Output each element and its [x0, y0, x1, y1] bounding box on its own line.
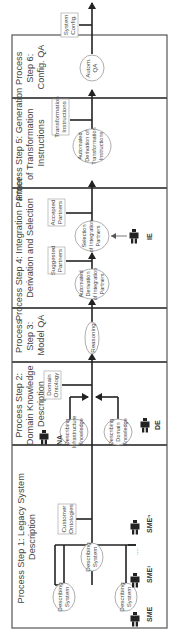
- process-diagram: Process Step 1: Legacy System Descriptio…: [0, 0, 176, 637]
- actor-sme-n: SMEⁿ: [131, 515, 154, 535]
- svg-text:DE: DE: [154, 420, 161, 430]
- svg-text:DescribingSystem: DescribingSystem: [118, 582, 132, 612]
- svg-text:SME¹: SME¹: [146, 565, 153, 583]
- svg-text:TransformationInstructions: TransformationInstructions: [53, 96, 67, 138]
- output-system-config: SystemConfig.: [61, 13, 78, 37]
- actor-sme-1: SME¹: [131, 565, 154, 588]
- svg-text:DescribingInfrastructureKnowle: DescribingInfrastructureKnowledge: [64, 416, 84, 449]
- svg-text:SMEⁿ: SMEⁿ: [146, 515, 153, 533]
- svg-text:SME: SME: [146, 607, 153, 623]
- svg-text:IE: IE: [146, 233, 153, 240]
- svg-text:DomainOntology: DomainOntology: [45, 372, 59, 398]
- activity-describing-system-2: DescribingSystem: [81, 542, 103, 572]
- artifact-domain-ontology: DomainOntology: [44, 371, 61, 399]
- step-2: Process Step 2: Domain Knowledge Descrip…: [14, 362, 161, 448]
- svg-text:DescribingSystem: DescribingSystem: [56, 582, 70, 612]
- artifact-transformation-instructions: TransformationInstructions: [52, 96, 69, 138]
- step-6: Process Step 6: Config. QA Autom.QA Syst…: [14, 3, 104, 89]
- step-5-title: Process Step 5: Generation of Transforma…: [14, 85, 46, 200]
- activity-describing-system-1: DescribingSystem: [53, 582, 75, 612]
- actor-ie: IE: [130, 229, 154, 244]
- actor-sme: SME: [131, 607, 154, 627]
- activity-automated-derivation-of-integration-partners: AutomatedDerivationof IntegrationPartner…: [75, 268, 109, 301]
- svg-text:Reasoning: Reasoning: [89, 323, 96, 353]
- svg-text:AcceptedPartners: AcceptedPartners: [49, 199, 63, 225]
- svg-text:DescribingSystem: DescribingSystem: [84, 542, 98, 572]
- step-1: Process Step 1: Legacy System Descriptio…: [16, 445, 153, 627]
- actor-na: NA: [40, 430, 64, 445]
- svg-text:CustomerOntologies: CustomerOntologies: [60, 504, 74, 534]
- svg-text:NA: NA: [56, 435, 63, 445]
- activity-describing-domain-knowledge: DescribingDomainKnowledge: [104, 418, 132, 446]
- artifact-customer-ontologies: CustomerOntologies: [58, 504, 76, 534]
- activity-autom-qa: Autom.QA: [80, 55, 104, 81]
- step-4: Process Step 4: Integration Partner Deri…: [14, 175, 153, 321]
- step-5: Process Step 5: Generation of Transforma…: [14, 85, 111, 200]
- svg-text:AutomatedDerivation ofTransfor: AutomatedDerivation ofTransformationInst…: [77, 127, 104, 164]
- actor-de: DE: [141, 418, 162, 433]
- activity-automated-derivation-of-transformation-instructions: AutomatedDerivation ofTransformationInst…: [73, 127, 111, 164]
- svg-text:SuggestedPartners: SuggestedPartners: [49, 245, 63, 275]
- activity-reasoning: Reasoning: [85, 322, 99, 354]
- step-2-title: Process Step 2: Domain Knowledge Descrip…: [14, 363, 46, 445]
- step-6-title: Process Step 6: Config. QA: [14, 44, 46, 90]
- artifact-accepted-partners: AcceptedPartners: [48, 199, 65, 226]
- activity-describing-infrastructure-knowledge: DescribingInfrastructureKnowledge: [60, 416, 88, 449]
- ellipsis: ....: [132, 548, 139, 555]
- step-1-title: Process Step 1: Legacy System Descriptio…: [16, 471, 37, 604]
- artifact-suggested-partners: SuggestedPartners: [48, 245, 65, 275]
- svg-text:SystemConfig.: SystemConfig.: [62, 15, 76, 36]
- activity-selection-of-integration-partners: Selectionof IntegrationPartners: [75, 220, 109, 253]
